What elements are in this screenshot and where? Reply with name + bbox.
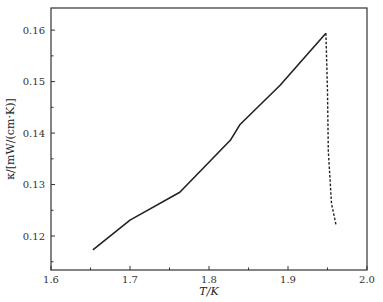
series-dashed-line xyxy=(326,33,336,226)
y-tick-label: 0.16 xyxy=(23,25,45,36)
plot-frame xyxy=(51,8,367,270)
series-solid-line xyxy=(93,33,326,250)
y-tick-label: 0.14 xyxy=(23,128,45,139)
chart: 1.61.71.81.92.0 0.120.130.140.150.16 T/K… xyxy=(0,0,383,302)
data-series xyxy=(93,33,336,250)
x-axis-label: T/K xyxy=(199,285,219,298)
x-axis-ticks: 1.61.71.81.92.0 xyxy=(43,266,375,285)
x-tick-label: 1.6 xyxy=(43,274,59,285)
y-tick-label: 0.15 xyxy=(23,76,45,87)
x-tick-label: 1.7 xyxy=(122,274,138,285)
y-axis-label: κ/[mW/(cm·K)] xyxy=(4,98,17,180)
y-tick-label: 0.12 xyxy=(23,231,45,242)
x-tick-label: 2.0 xyxy=(359,274,375,285)
y-tick-label: 0.13 xyxy=(23,179,45,190)
x-tick-label: 1.8 xyxy=(201,274,217,285)
x-tick-label: 1.9 xyxy=(280,274,296,285)
y-axis-ticks: 0.120.130.140.150.16 xyxy=(23,25,55,262)
